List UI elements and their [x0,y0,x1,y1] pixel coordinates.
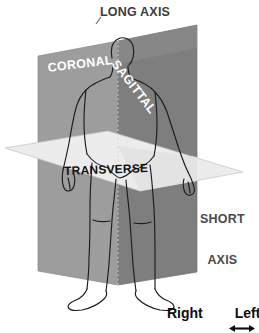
short-axis-label-line1: SHORT [200,213,245,227]
right-left-direction-indicator: Right Left [167,306,259,321]
long-axis-label: LONG AXIS [100,6,170,20]
short-axis-label-line2: AXIS [200,254,245,268]
direction-label-left: Left [235,306,259,321]
anatomical-planes-figure: LONG AXIS CORONAL SAGITTAL TRANSVERSE SH… [0,0,259,333]
direction-label-right: Right [167,306,203,321]
double-headed-arrow-icon [206,307,232,320]
short-axis-label: SHORT AXIS [200,186,245,294]
